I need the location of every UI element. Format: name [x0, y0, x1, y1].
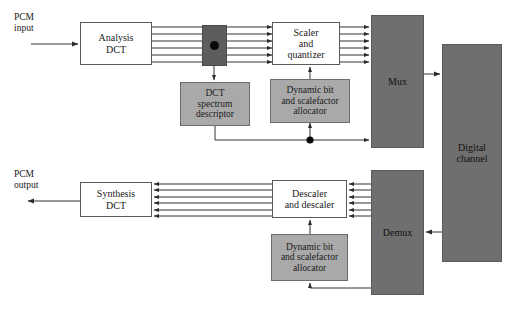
wire-demux-to-allocator [310, 283, 371, 288]
pcm-input-label-line1: PCM [14, 12, 74, 23]
analysis-dct-line2: DCT [99, 44, 134, 55]
synthesis-dct-line2: DCT [97, 200, 135, 211]
block-mux[interactable]: Mux [371, 15, 424, 148]
pcm-output-label: PCM output [14, 169, 80, 191]
tap-dot-icon [210, 41, 219, 50]
block-descaler[interactable]: Descaler and descaler [272, 180, 347, 218]
digital-channel-line2: channel [456, 153, 487, 164]
allocator-dec-line1: Dynamic bit [281, 242, 338, 253]
block-dynamic-allocator-decoder[interactable]: Dynamic bit and scalefactor allocator [271, 234, 348, 281]
block-synthesis-dct[interactable]: Synthesis DCT [80, 182, 152, 217]
block-diagram: PCM input PCM output Analysis DCT DCT sp… [0, 0, 517, 315]
mux-label: Mux [388, 76, 407, 87]
analysis-dct-line1: Analysis [99, 32, 134, 43]
scaler-line1: Scaler [287, 27, 324, 38]
descaler-line2: and descaler [285, 199, 335, 210]
block-demux[interactable]: Demux [371, 170, 424, 295]
synthesis-dct-line1: Synthesis [97, 188, 135, 199]
scaler-line3: quantizer [287, 49, 324, 60]
allocator-enc-line2: and scalefactor [281, 96, 338, 107]
block-digital-channel[interactable]: Digital channel [442, 44, 502, 262]
allocator-dec-line2: and scalefactor [281, 252, 338, 263]
pcm-output-label-line1: PCM [14, 169, 80, 180]
allocator-enc-line3: allocator [281, 106, 338, 117]
wire-descriptor-to-mux [215, 126, 369, 140]
block-dct-tap[interactable] [202, 25, 227, 66]
demux-label: Demux [383, 227, 412, 238]
pcm-input-label: PCM input [14, 12, 74, 34]
block-dct-spectrum-descriptor[interactable]: DCT spectrum descriptor [180, 82, 250, 126]
scaler-line2: and [287, 38, 324, 49]
allocator-dec-line3: allocator [281, 263, 338, 274]
dct-descriptor-line2: spectrum [196, 99, 234, 110]
block-scaler-quantizer[interactable]: Scaler and quantizer [272, 22, 340, 65]
wire-layer [0, 0, 517, 315]
pcm-input-label-line2: input [14, 23, 74, 34]
descaler-line1: Descaler [285, 188, 335, 199]
digital-channel-line1: Digital [456, 142, 487, 153]
junction-dot-encoder [306, 136, 313, 143]
dct-descriptor-line1: DCT [196, 88, 234, 99]
allocator-enc-line1: Dynamic bit [281, 85, 338, 96]
pcm-output-label-line2: output [14, 180, 80, 191]
block-dynamic-allocator-encoder[interactable]: Dynamic bit and scalefactor allocator [270, 79, 350, 123]
dct-descriptor-line3: descriptor [196, 109, 234, 120]
block-analysis-dct[interactable]: Analysis DCT [80, 22, 152, 65]
